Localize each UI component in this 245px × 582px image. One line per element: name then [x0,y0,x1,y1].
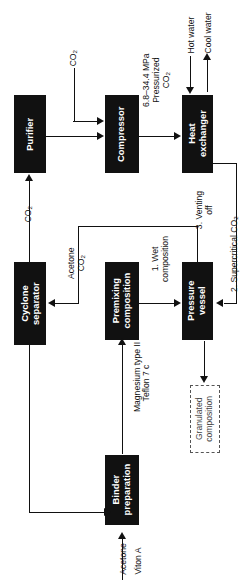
arrowhead-co2-feed [97,117,104,125]
label-hot-water: Hot water [186,12,196,58]
node-purifier-label: Purifier [25,118,36,151]
node-purifier: Purifier [14,95,46,173]
label-co2-feed: CO2 [68,35,80,81]
label-acetone-co2: AcetoneCO2 [66,233,88,293]
label-pressurized-co2: 6.8–34.4 MPaPressurizedCO2 [141,48,173,112]
arrowhead-supercritical [216,299,223,307]
edge-pressure-granulated [204,341,205,377]
arrowhead-purifier-compressor [97,132,104,140]
label-wet-composition: 1. Wetcomposition [150,229,170,289]
edge-compressor-heat-exchanger [139,136,175,137]
node-premixing-label: Premixingcomposition [111,273,132,329]
process-flow-diagram: Purifier Compressor Heatexchanger CO2 6.… [0,0,245,582]
edge-hx-out [212,163,237,164]
edge-binder-premixing [122,344,123,454]
edge-cyclone-recycle-down [29,345,30,513]
arrowhead-cyclone-purifier [25,174,33,181]
arrowhead-compressor-heat-exchanger [174,132,181,140]
edge-cool-water [207,58,208,92]
edge-hot-water [190,56,191,88]
label-supercritical-co2: 2. Supercritical CO2 [229,211,241,297]
node-premixing: Premixingcomposition [105,262,139,340]
node-pressure-vessel: Pressurevessel [182,262,213,340]
label-teflon: Teflon 7 c [141,348,151,418]
node-pressure-vessel-label: Pressurevessel [187,281,208,321]
label-viton-a: Viton A [133,538,143,582]
node-compressor-label: Compressor [117,106,128,161]
node-heat-exchanger: Heatexchanger [182,95,213,173]
edge-venting-to-cyclone [55,303,79,304]
node-cyclone-separator: Cycloneseparator [14,262,46,345]
edge-premixing-pressure [139,303,175,304]
arrowhead-pressure-granulated [200,376,208,383]
arrowhead-hot-water [186,87,194,94]
arrowhead-cyclone-recycle [104,508,111,516]
node-heat-exchanger-label: Heatexchanger [187,111,208,158]
node-granulated-composition-label: Granulatedcomposition [195,396,215,442]
arrowhead-premixing-pressure [174,299,181,307]
edge-supercritical-in [224,303,237,304]
label-co2-recycle: CO2 [23,193,35,235]
arrowhead-venting-cyclone [48,299,55,307]
node-granulated-composition: Granulatedcomposition [190,385,220,453]
label-venting-off: 3. Ventingoff [194,182,214,238]
edge-cyclone-recycle-across [29,512,105,513]
node-binder-preparation-label: Binderpreparation [111,464,132,516]
node-cyclone-separator-label: Cycloneseparator [19,282,40,325]
label-acetone: Acetone [118,536,128,582]
edge-co2-feed-horizontal [73,121,98,122]
node-compressor: Compressor [105,95,139,173]
label-cool-water: Cool water [203,10,213,56]
edge-venting-top [78,226,198,227]
edge-purifier-compressor [46,136,98,137]
arrowhead-binder-premixing [118,338,126,345]
